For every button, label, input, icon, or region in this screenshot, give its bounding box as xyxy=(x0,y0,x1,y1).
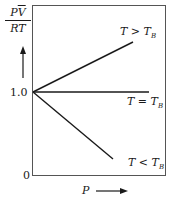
label-t-greater-tb: T > TB xyxy=(120,26,156,40)
x-arrow-head-icon xyxy=(120,188,128,194)
tick-one: 1.0 xyxy=(10,87,28,98)
label-t-less-tb: T < TB xyxy=(128,157,164,171)
y-axis-label: PV RT xyxy=(5,6,31,35)
y-label-denominator: RT xyxy=(5,21,31,35)
x-axis-label: P xyxy=(82,185,89,196)
y-arrow-head-icon xyxy=(20,46,26,54)
line-t-greater-than-tb xyxy=(33,42,133,92)
line-t-less-than-tb xyxy=(33,92,113,159)
y-label-v: V xyxy=(18,6,26,19)
tick-zero: 0 xyxy=(23,170,30,181)
label-t-equal-tb: T = TB xyxy=(127,96,163,110)
y-label-p: P xyxy=(10,6,17,19)
